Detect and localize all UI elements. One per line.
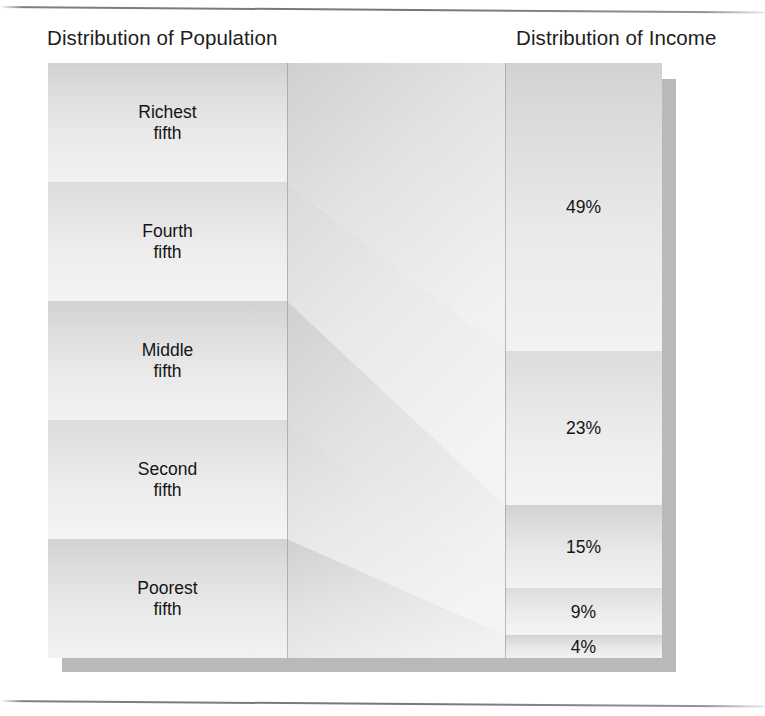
population-band-richest-label: Richest fifth <box>48 102 287 144</box>
scan-rule-bottom <box>0 700 765 708</box>
chart-area: Richest fifth Fourth fifth Middle fifth … <box>48 63 662 658</box>
income-band-richest: 49% <box>505 63 662 351</box>
income-band-second-value: 9% <box>505 601 662 622</box>
income-band-poorest: 4% <box>505 635 662 658</box>
population-band-poorest: Poorest fifth <box>48 539 287 658</box>
scan-rule-top <box>0 6 765 14</box>
chart-drop-shadow-bottom <box>62 658 676 672</box>
right-chart-title: Distribution of Income <box>516 26 716 50</box>
population-band-middle-label: Middle fifth <box>48 340 287 382</box>
population-column: Richest fifth Fourth fifth Middle fifth … <box>48 63 287 658</box>
population-band-second-line2: fifth <box>48 480 287 501</box>
income-column: 49% 23% 15% 9% 4% <box>505 63 662 658</box>
population-band-richest-line1: Richest <box>138 102 196 122</box>
divider-connector-income <box>505 63 506 658</box>
population-band-richest: Richest fifth <box>48 63 287 182</box>
income-band-richest-value: 49% <box>505 197 662 218</box>
population-band-fourth-label: Fourth fifth <box>48 221 287 263</box>
population-band-poorest-line2: fifth <box>48 599 287 620</box>
population-band-fourth-line1: Fourth <box>142 221 193 241</box>
left-chart-title: Distribution of Population <box>47 26 278 50</box>
population-band-richest-line2: fifth <box>48 123 287 144</box>
population-band-middle-line2: fifth <box>48 361 287 382</box>
income-band-fourth-value: 23% <box>505 418 662 439</box>
income-band-fourth: 23% <box>505 351 662 505</box>
figure-root: Distribution of Population Distribution … <box>0 0 765 716</box>
income-band-middle-value: 15% <box>505 536 662 557</box>
divider-population-connector <box>287 63 288 658</box>
population-band-poorest-line1: Poorest <box>137 578 197 598</box>
population-band-second-line1: Second <box>138 459 197 479</box>
income-band-poorest-value: 4% <box>505 636 662 657</box>
chart-drop-shadow-right <box>662 79 676 672</box>
population-band-second: Second fifth <box>48 420 287 539</box>
population-band-fourth: Fourth fifth <box>48 182 287 301</box>
population-band-middle: Middle fifth <box>48 301 287 420</box>
population-band-poorest-label: Poorest fifth <box>48 578 287 620</box>
population-band-fourth-line2: fifth <box>48 242 287 263</box>
population-band-second-label: Second fifth <box>48 459 287 501</box>
income-band-middle: 15% <box>505 505 662 588</box>
population-band-middle-line1: Middle <box>142 340 194 360</box>
connector-zone <box>287 63 505 658</box>
income-band-second: 9% <box>505 588 662 635</box>
